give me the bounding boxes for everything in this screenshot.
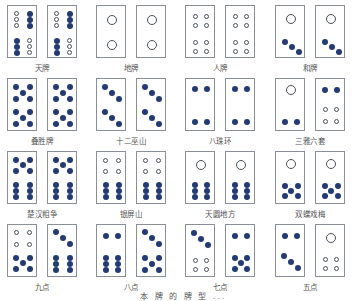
filled-pip-icon — [53, 194, 59, 200]
filled-pip-icon — [109, 90, 115, 96]
hollow-pip-icon — [14, 17, 19, 22]
filled-pip-icon — [322, 87, 328, 93]
hollow-pip-icon — [107, 15, 117, 25]
hollow-pip-icon — [193, 40, 198, 45]
domino-tile-right — [315, 224, 345, 277]
filled-pip-icon — [244, 119, 250, 125]
filled-pip-icon — [20, 260, 26, 266]
tile-pair-label: 八珠环 — [185, 135, 255, 146]
hollow-pip-icon — [233, 14, 238, 19]
filled-pip-icon — [27, 109, 33, 115]
hollow-pip-icon — [326, 233, 336, 243]
filled-pip-icon — [322, 193, 328, 199]
hollow-pip-icon — [193, 267, 198, 272]
hollow-pip-icon — [334, 107, 339, 112]
filled-pip-icon — [334, 87, 340, 93]
domino-tile-right — [136, 224, 166, 277]
hollow-pip-icon — [326, 14, 336, 24]
tile-pair-label: 十二巫山 — [96, 135, 166, 146]
filled-pip-icon — [20, 90, 26, 96]
filled-pip-icon — [27, 157, 33, 163]
filled-pip-icon — [142, 267, 148, 273]
hollow-pip-icon — [326, 159, 336, 169]
filled-pip-icon — [232, 194, 238, 200]
hollow-pip-icon — [14, 23, 19, 28]
hollow-pip-icon — [156, 169, 161, 174]
domino-tile-left — [96, 151, 126, 204]
hollow-pip-icon — [286, 14, 296, 24]
domino-tile-right — [315, 5, 345, 58]
hollow-pip-icon — [143, 158, 148, 163]
filled-pip-icon — [282, 233, 288, 239]
filled-pip-icon — [232, 233, 238, 239]
tile-pair-label: 楚汉相争 — [7, 208, 77, 219]
filled-pip-icon — [142, 229, 148, 235]
filled-pip-icon — [149, 115, 155, 121]
filled-pip-icon — [13, 266, 19, 272]
filled-pip-icon — [282, 119, 288, 125]
filled-pip-icon — [156, 241, 162, 247]
filled-pip-icon — [282, 39, 288, 45]
hollow-pip-icon — [193, 23, 198, 28]
filled-pip-icon — [156, 194, 162, 200]
filled-pip-icon — [244, 194, 250, 200]
filled-pip-icon — [116, 96, 122, 102]
hollow-pip-icon — [27, 242, 32, 247]
filled-pip-icon — [13, 194, 19, 200]
filled-pip-icon — [67, 84, 73, 90]
domino-tile-right — [47, 78, 77, 131]
filled-pip-icon — [13, 157, 19, 163]
filled-pip-icon — [116, 194, 122, 200]
filled-pip-icon — [282, 193, 288, 199]
domino-tile-right — [136, 5, 166, 58]
tile-pair-label: 地牌 — [96, 62, 166, 73]
hollow-pip-icon — [236, 160, 246, 170]
hollow-pip-icon — [244, 23, 249, 28]
filled-pip-icon — [13, 109, 19, 115]
domino-tile-right — [225, 224, 255, 277]
filled-pip-icon — [14, 50, 20, 56]
filled-pip-icon — [53, 96, 59, 102]
filled-pip-icon — [328, 188, 334, 194]
filled-pip-icon — [232, 255, 238, 261]
hollow-pip-icon — [244, 40, 249, 45]
filled-pip-icon — [103, 267, 109, 273]
filled-pip-icon — [156, 267, 162, 273]
domino-tile-left — [275, 5, 305, 58]
hollow-pip-icon — [323, 107, 328, 112]
filled-pip-icon — [238, 260, 244, 266]
filled-pip-icon — [281, 253, 287, 259]
hollow-pip-icon — [193, 49, 198, 54]
filled-pip-icon — [67, 96, 73, 102]
hollow-pip-icon — [204, 267, 209, 272]
tile-pair-label: 叠胜牌 — [7, 135, 77, 146]
domino-tile-left — [275, 78, 305, 131]
hollow-pip-icon — [67, 38, 72, 43]
hollow-pip-icon — [116, 169, 121, 174]
filled-pip-icon — [67, 241, 73, 247]
filled-pip-icon — [288, 188, 294, 194]
domino-tile-right — [315, 151, 345, 204]
hollow-pip-icon — [233, 23, 238, 28]
domino-tile-left — [185, 224, 215, 277]
filled-pip-icon — [27, 84, 33, 90]
filled-pip-icon — [149, 235, 155, 241]
domino-tile-left — [7, 5, 37, 58]
filled-pip-icon — [53, 109, 59, 115]
hollow-pip-icon — [54, 11, 59, 16]
domino-tile-left — [185, 151, 215, 204]
filled-pip-icon — [60, 115, 66, 121]
domino-tile-left — [96, 78, 126, 131]
filled-pip-icon — [244, 266, 250, 272]
hollow-pip-icon — [143, 169, 148, 174]
hollow-pip-icon — [54, 23, 59, 28]
filled-pip-icon — [295, 193, 301, 199]
tile-pair-label: 银屏山 — [96, 208, 166, 219]
filled-pip-icon — [329, 44, 335, 50]
tile-pair-label: 天圆地方 — [185, 208, 255, 219]
hollow-pip-icon — [204, 49, 209, 54]
filled-pip-icon — [103, 233, 109, 239]
hollow-pip-icon — [147, 40, 157, 50]
filled-pip-icon — [115, 267, 121, 273]
hollow-pip-icon — [204, 258, 209, 263]
